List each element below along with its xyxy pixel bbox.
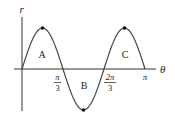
region-label-c: C [122, 49, 129, 60]
peak-point-a [41, 26, 45, 30]
tick-label-2pi-over-3-numerator: 2π [106, 72, 115, 82]
region-label-a: A [38, 49, 46, 60]
tick-label-2pi-over-3-denominator: 3 [108, 83, 112, 93]
x-axis-label: θ [160, 63, 166, 75]
trough-point-b [82, 108, 86, 112]
tick-label-pi-over-3-numerator: π [55, 72, 60, 82]
peak-point-c [123, 26, 127, 30]
region-label-b: B [81, 80, 88, 91]
polar-graph-plot: r θ π 3 2π 3 π A B C [0, 0, 175, 114]
tick-label-pi: π [143, 72, 148, 82]
tick-label-pi-over-3-denominator: 3 [55, 83, 59, 93]
y-axis-label: r [20, 3, 25, 15]
